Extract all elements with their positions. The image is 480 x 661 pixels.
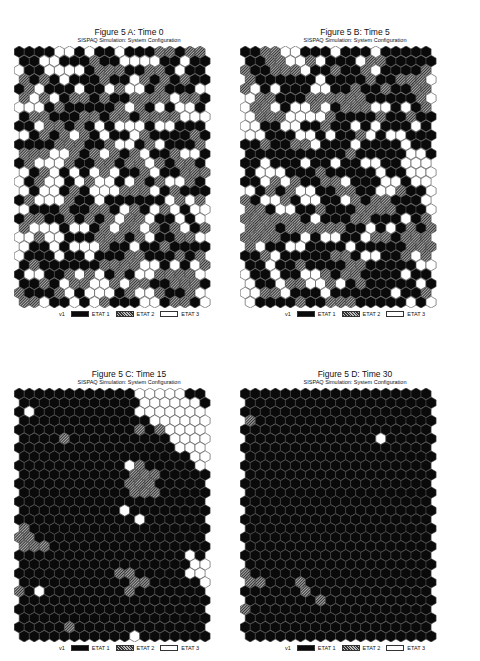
legend-item-etat1: ETAT 1 [297,311,336,317]
swatch-hatched-icon [342,311,360,317]
hex-cell [120,630,130,642]
panel-d: Figure 5 D: Time 30 SISPAQ Simulation: S… [240,370,470,651]
hex-cell [160,630,170,642]
panel-a: Figure 5 A: Time 0 SISPAQ Simulation: Sy… [14,28,244,317]
panel-c: Figure 5 C: Time 15 SISPAQ Simulation: S… [14,370,244,651]
panel-subtitle: SISPAQ Simulation: System Configuration [14,379,244,385]
legend-item-etat1: ETAT 1 [297,645,336,651]
hex-cell [200,296,210,308]
hex-cell [285,630,295,642]
hex-cell [140,630,150,642]
hex-grid [240,46,460,308]
panel-subtitle: SISPAQ Simulation: System Configuration [240,37,470,43]
legend: v1 ETAT 1 ETAT 2 ETAT 3 [14,645,244,651]
hex-cell [376,630,386,642]
hex-cell [170,630,180,642]
hex-cell [39,296,49,308]
hex-cell [110,296,120,308]
hex-cell [110,630,120,642]
hex-cell [255,630,265,642]
hex-cell [406,296,416,308]
hex-cell [306,296,316,308]
hex-cell [39,630,49,642]
swatch-white-icon [160,645,178,651]
legend: v1 ETAT 1 ETAT 2 ETAT 3 [240,645,470,651]
hex-cell [346,630,356,642]
hex-cell [200,630,210,642]
swatch-hatched-icon [116,645,134,651]
legend-item-etat3: ETAT 3 [160,311,199,317]
swatch-black-icon [297,645,315,651]
swatch-black-icon [297,311,315,317]
hex-cell [336,630,346,642]
hex-cell [150,296,160,308]
legend-item-etat3: ETAT 3 [386,645,425,651]
hex-cell [265,296,275,308]
hex-cell [90,630,100,642]
hex-cell [100,630,110,642]
legend-item-etat3: ETAT 3 [160,645,199,651]
hex-cell [275,630,285,642]
hex-cell [396,630,406,642]
hex-cell [376,296,386,308]
legend-item-etat1: ETAT 1 [71,311,110,317]
hex-cell [275,296,285,308]
hex-cell [326,630,336,642]
panel-title: Figure 5 C: Time 15 [14,370,244,379]
hex-cell [150,630,160,642]
hex-cell [316,296,326,308]
hex-cell [295,296,305,308]
hex-cell [19,296,29,308]
legend-item-etat1: ETAT 1 [71,645,110,651]
hex-cell [80,296,90,308]
swatch-hatched-icon [116,311,134,317]
hex-cell [69,296,79,308]
panel-subtitle: SISPAQ Simulation: System Configuration [240,379,470,385]
hex-cell [19,630,29,642]
hex-cell [265,630,275,642]
hex-cell [180,296,190,308]
swatch-hatched-icon [342,645,360,651]
legend-prefix: v1 [59,645,65,651]
swatch-white-icon [386,311,404,317]
hex-cell [416,296,426,308]
hex-cell [80,630,90,642]
hex-cell [170,296,180,308]
hex-cell [366,630,376,642]
legend-prefix: v1 [285,311,291,317]
panel-title: Figure 5 A: Time 0 [14,28,244,37]
hex-cell [346,296,356,308]
hex-cell [255,296,265,308]
hex-cell [190,630,200,642]
hex-cell [69,630,79,642]
hex-cell [130,296,140,308]
hex-cell [190,296,200,308]
panel-subtitle: SISPAQ Simulation: System Configuration [14,37,244,43]
hex-cell [326,296,336,308]
hex-cell [366,296,376,308]
hex-cell [285,296,295,308]
hex-cell [386,296,396,308]
swatch-white-icon [160,311,178,317]
hex-cell [120,296,130,308]
hex-cell [295,630,305,642]
hex-grid [14,46,234,308]
hex-cell [180,630,190,642]
hex-cell [29,296,39,308]
hex-cell [29,630,39,642]
legend-item-etat2: ETAT 2 [116,311,155,317]
hex-cell [416,630,426,642]
panel-title: Figure 5 D: Time 30 [240,370,470,379]
legend-item-etat2: ETAT 2 [342,311,381,317]
hex-cell [406,630,416,642]
hex-grid [14,388,234,642]
hex-cell [160,296,170,308]
hex-cell [336,296,346,308]
legend-prefix: v1 [59,311,65,317]
hex-cell [90,296,100,308]
hex-cell [316,630,326,642]
legend-item-etat3: ETAT 3 [386,311,425,317]
hex-cell [356,630,366,642]
hex-cell [59,630,69,642]
hex-cell [245,296,255,308]
